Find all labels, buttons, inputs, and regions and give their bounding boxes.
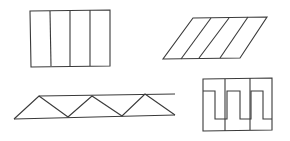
divider-line	[181, 18, 211, 59]
zigzag-box	[203, 78, 272, 131]
top-chord-line	[39, 94, 175, 96]
divider-line	[50, 11, 51, 66]
bottom-chord-line	[14, 115, 175, 119]
geometric-shapes-figure	[0, 0, 290, 141]
triangle-truss	[14, 94, 175, 119]
rectangle-four-columns	[30, 10, 110, 67]
parallelogram-four-strips	[163, 17, 267, 59]
zigzag-line	[203, 91, 272, 119]
zigzag-box-outline	[203, 78, 272, 131]
parallelogram-four-strips-outline	[163, 17, 267, 59]
